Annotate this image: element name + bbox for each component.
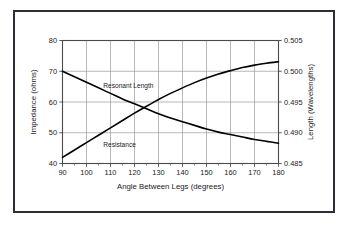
- y-tick-label-left: 60: [49, 98, 57, 107]
- x-tick-label: 100: [80, 168, 92, 177]
- data-series: [63, 62, 279, 158]
- x-tick-label: 120: [128, 168, 140, 177]
- y-tick-label-left: 70: [49, 67, 57, 76]
- chart-figure: 9010011012013014015016017018040506070800…: [0, 0, 348, 227]
- series-annotations: Resonant LengthResistance: [103, 82, 154, 148]
- x-tick-label: 160: [224, 168, 236, 177]
- series-annotation-1: Resonant Length: [103, 82, 154, 90]
- y-tick-label-right: 0.495: [284, 98, 303, 107]
- chart-canvas: 9010011012013014015016017018040506070800…: [0, 0, 348, 227]
- tick-marks: [59, 41, 281, 167]
- y-tick-label-left: 40: [49, 159, 57, 168]
- series-annotation-2: Resistance: [103, 141, 136, 148]
- x-tick-label: 130: [152, 168, 164, 177]
- x-axis-title: Angle Between Legs (degrees): [117, 182, 224, 191]
- y-axis-title-left: Impedance (ohms): [29, 69, 38, 134]
- x-tick-label: 140: [176, 168, 188, 177]
- y-tick-label-left: 80: [49, 36, 57, 45]
- x-tick-label: 150: [200, 168, 212, 177]
- x-tick-label: 90: [58, 168, 66, 177]
- y-tick-label-right: 0.485: [284, 159, 303, 168]
- grid-lines: [63, 41, 279, 164]
- x-tick-label: 180: [272, 168, 284, 177]
- x-tick-label: 110: [105, 168, 117, 177]
- y-tick-label-right: 0.490: [284, 128, 303, 137]
- y-axis-title-right: Length (Wavelengths): [306, 64, 315, 140]
- axis-labels: 9010011012013014015016017018040506070800…: [29, 36, 315, 190]
- y-tick-label-left: 50: [49, 128, 57, 137]
- y-tick-label-right: 0.500: [284, 67, 303, 76]
- x-tick-label: 170: [248, 168, 260, 177]
- y-tick-label-right: 0.505: [284, 36, 303, 45]
- series-line-2: [63, 62, 279, 158]
